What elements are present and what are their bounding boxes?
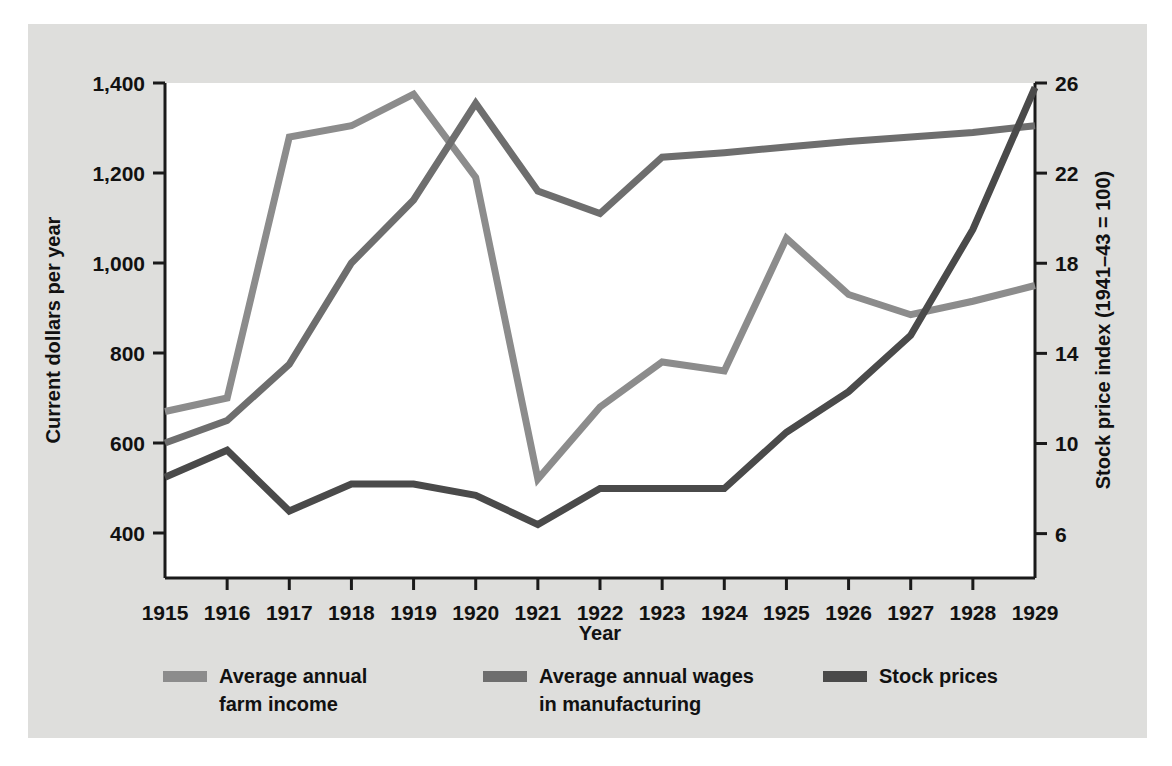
y-tick-label: 1,400 — [92, 72, 145, 95]
x-tick-label: 1929 — [1012, 601, 1059, 624]
y-tick-label: 600 — [110, 432, 145, 455]
y2-tick-label: 18 — [1055, 252, 1079, 275]
legend-item[interactable]: Stock prices — [823, 665, 998, 687]
x-tick-label: 1916 — [204, 601, 251, 624]
x-tick-label: 1922 — [577, 601, 624, 624]
x-tick-label: 1919 — [390, 601, 437, 624]
x-tick-label: 1928 — [949, 601, 996, 624]
x-axis-ticks: 1915191619171918191919201921192219231924… — [142, 578, 1059, 624]
plot-area-background — [165, 83, 1035, 578]
x-tick-label: 1924 — [701, 601, 748, 624]
x-tick-label: 1915 — [142, 601, 189, 624]
x-tick-label: 1920 — [452, 601, 499, 624]
x-tick-label: 1927 — [887, 601, 934, 624]
y2-tick-label: 22 — [1055, 162, 1078, 185]
line-chart: 4006008001,0001,2001,400 61014182226 191… — [0, 0, 1172, 766]
x-tick-label: 1926 — [825, 601, 872, 624]
y-tick-label: 400 — [110, 522, 145, 545]
x-tick-label: 1923 — [639, 601, 686, 624]
x-tick-label: 1921 — [514, 601, 561, 624]
x-tick-label: 1917 — [266, 601, 313, 624]
x-tick-label: 1918 — [328, 601, 375, 624]
y2-tick-label: 10 — [1055, 432, 1078, 455]
y-tick-label: 800 — [110, 342, 145, 365]
legend-label: in manufacturing — [539, 693, 701, 715]
legend-swatch — [823, 671, 867, 682]
y2-tick-label: 14 — [1055, 342, 1079, 365]
y-axis-title: Current dollars per year — [42, 216, 64, 443]
x-tick-label: 1925 — [763, 601, 810, 624]
legend: Average annualfarm incomeAverage annual … — [163, 665, 998, 715]
y2-axis-title: Stock price index (1941–43 = 100) — [1092, 171, 1114, 490]
legend-label: farm income — [219, 693, 338, 715]
legend-item[interactable]: Average annual wagesin manufacturing — [483, 665, 754, 715]
y-tick-label: 1,200 — [92, 162, 145, 185]
y-axis-ticks: 4006008001,0001,2001,400 — [92, 72, 165, 545]
legend-swatch — [163, 671, 207, 682]
y2-tick-label: 26 — [1055, 72, 1078, 95]
y2-axis-ticks: 61014182226 — [1035, 72, 1079, 546]
legend-label: Average annual wages — [539, 665, 754, 687]
legend-label: Average annual — [219, 665, 367, 687]
y-tick-label: 1,000 — [92, 252, 145, 275]
legend-item[interactable]: Average annualfarm income — [163, 665, 367, 715]
legend-label: Stock prices — [879, 665, 998, 687]
legend-swatch — [483, 671, 527, 682]
y2-tick-label: 6 — [1055, 523, 1067, 546]
x-axis-title: Year — [579, 622, 621, 644]
